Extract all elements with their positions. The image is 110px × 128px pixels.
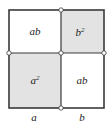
side-label-b: b	[79, 111, 85, 123]
label-bottom-right: ab	[77, 74, 89, 86]
vertex-center	[59, 51, 63, 55]
square-diagram: ab b2 a2 ab a b	[0, 0, 110, 128]
vertex-left-mid	[7, 51, 11, 55]
label-top-left: ab	[30, 25, 42, 37]
vertex-top-mid	[59, 8, 63, 12]
vertex-right-mid	[102, 51, 106, 55]
side-label-a: a	[31, 111, 37, 123]
vertex-bottom-mid	[59, 106, 63, 110]
